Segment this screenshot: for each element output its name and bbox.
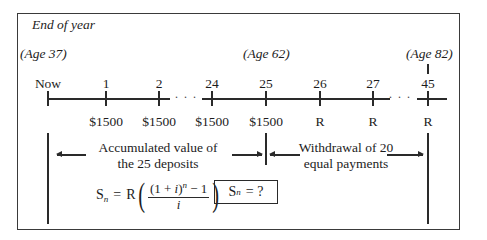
tick-mark-2 — [158, 91, 160, 106]
accumulation-arrow-left — [57, 154, 86, 156]
withdrawal-caption-line-1: Withdrawal of 20 — [299, 140, 394, 156]
formula-coef: R — [126, 187, 135, 203]
formula-denominator: i — [177, 198, 181, 212]
payment-26: R — [315, 114, 324, 130]
tick-label-45: 45 — [421, 76, 435, 92]
bracket-45 — [427, 133, 429, 224]
payment-25: $1500 — [249, 114, 283, 130]
accumulation-arrow-right — [232, 154, 262, 156]
timeline-segment-2 — [202, 98, 390, 100]
withdrawal-caption-line-2: equal payments — [299, 156, 394, 172]
timeline-segment-1 — [48, 98, 170, 100]
tick-mark-now — [47, 91, 49, 106]
timeline-ellipsis-1: · · · — [175, 90, 198, 105]
timeline-ellipsis-2: · · · — [389, 90, 412, 105]
left-paren: ( — [138, 180, 145, 210]
formula-numerator: (1 + i)n − 1 — [148, 178, 209, 198]
withdrawal-caption: Withdrawal of 20 equal payments — [299, 140, 394, 172]
tick-mark-27 — [372, 91, 374, 106]
tick-mark-1 — [105, 91, 107, 106]
withdrawal-arrow-right — [387, 154, 423, 156]
formula-lhs: Sn — [96, 187, 108, 204]
age-82-label: (Age 82) — [406, 46, 453, 62]
formula-equals: = — [113, 187, 121, 203]
payment-2: $1500 — [142, 114, 176, 130]
timeline-segment-3 — [417, 98, 447, 100]
accumulation-caption: Accumulated value of the 25 deposits — [98, 140, 217, 172]
age-37-label: (Age 37) — [20, 46, 67, 62]
accumulation-caption-line-2: the 25 deposits — [98, 156, 217, 172]
bracket-25 — [265, 133, 267, 165]
payment-27: R — [368, 114, 377, 130]
age-82-pointer — [427, 64, 429, 74]
accumulation-caption-line-1: Accumulated value of — [98, 140, 217, 156]
tick-label-26: 26 — [313, 76, 327, 92]
payment-45: R — [423, 114, 432, 130]
tick-mark-45 — [427, 91, 429, 106]
end-of-year-label: End of year — [32, 17, 95, 33]
bracket-now — [47, 133, 49, 224]
payment-1: $1500 — [89, 114, 123, 130]
tick-label-1: 1 — [103, 76, 110, 92]
future-value-formula: Sn = R ( (1 + i)n − 1 i ) — [96, 178, 222, 212]
tick-label-24: 24 — [205, 76, 219, 92]
tick-mark-24 — [211, 91, 213, 106]
tick-label-now: Now — [35, 76, 61, 92]
tick-label-2: 2 — [156, 76, 163, 92]
tick-mark-25 — [265, 91, 267, 106]
payment-24: $1500 — [195, 114, 229, 130]
tick-mark-26 — [319, 91, 321, 106]
age-62-label: (Age 62) — [243, 46, 290, 62]
tick-label-27: 27 — [366, 76, 380, 92]
unknown-sn-box: Sn = ? — [214, 180, 278, 204]
formula-fraction: (1 + i)n − 1 i — [148, 178, 209, 212]
tick-label-25: 25 — [259, 76, 273, 92]
withdrawal-arrow-left — [270, 154, 300, 156]
